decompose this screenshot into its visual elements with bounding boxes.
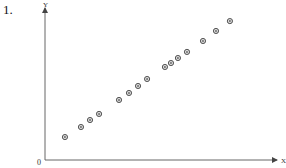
data-point xyxy=(162,64,167,69)
data-point xyxy=(87,117,92,122)
data-point xyxy=(175,55,180,60)
origin-label: 0 xyxy=(37,158,41,167)
axes: X Y 0 xyxy=(37,1,286,167)
scatter-plot: X Y 0 xyxy=(0,0,286,168)
data-point xyxy=(62,134,67,139)
data-point xyxy=(213,28,218,33)
data-point xyxy=(135,83,140,88)
data-point xyxy=(184,49,189,54)
data-point xyxy=(116,97,121,102)
x-axis-label: X xyxy=(281,157,286,165)
data-point xyxy=(200,38,205,43)
data-point xyxy=(78,124,83,129)
data-point xyxy=(96,111,101,116)
data-points xyxy=(62,18,232,139)
y-axis-label: Y xyxy=(43,1,48,9)
data-point xyxy=(144,76,149,81)
data-point xyxy=(126,90,131,95)
data-point xyxy=(227,18,232,23)
data-point xyxy=(168,60,173,65)
